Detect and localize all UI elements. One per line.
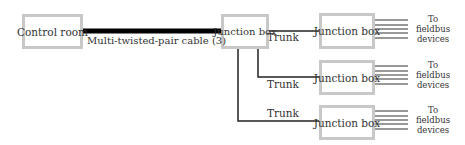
- fieldbus-label-3: Tofieldbusdevices: [413, 105, 453, 135]
- junction-1-label: Junction box: [314, 25, 381, 37]
- control-room-node: Control room: [22, 14, 83, 49]
- junction-2-label: Junction box: [314, 72, 381, 84]
- junction-box-1-node: Junction box: [319, 13, 375, 49]
- trunk-2-label: Trunk: [267, 78, 299, 90]
- junction-3-label: Junction box: [314, 117, 381, 129]
- junction-box-3-node: Junction box: [319, 105, 375, 140]
- control-room-label: Control room: [17, 26, 88, 38]
- main-cable-label: Multi-twisted-pair cable (3): [87, 35, 226, 46]
- main-junction-box-node: Junction box: [221, 14, 269, 49]
- fieldbus-label-1: Tofieldbusdevices: [413, 14, 453, 44]
- trunk-1-label: Trunk: [267, 31, 299, 43]
- junction-box-2-node: Junction box: [319, 60, 375, 95]
- trunk-3-label: Trunk: [267, 107, 299, 119]
- fieldbus-label-2: Tofieldbusdevices: [413, 60, 453, 90]
